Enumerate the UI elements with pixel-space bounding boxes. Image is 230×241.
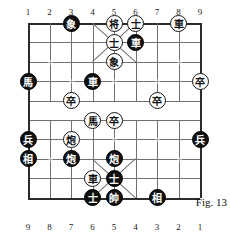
grid-file-line-7-upper [157, 23, 158, 101]
star-point-3-4 [69, 79, 74, 84]
axis-label-bottom-8: 8 [44, 222, 56, 232]
star-point-7-4 [155, 79, 160, 84]
axis-label-bottom-3: 3 [151, 222, 163, 232]
piece-black-marshal-5[interactable]: 帥 [106, 189, 123, 206]
piece-advisor-6-1[interactable]: 士 [127, 15, 144, 32]
axis-label-bottom-2: 2 [173, 222, 185, 232]
piece-white-cannon-3[interactable]: 炮 [63, 131, 80, 148]
grid-file-line-3-upper [71, 23, 72, 101]
piece-black-chariot-4[interactable]: 車 [84, 73, 101, 90]
grid-file-line-1 [28, 23, 30, 198]
piece-black-advisor-5[interactable]: 士 [106, 170, 123, 187]
piece-white-chariot-4[interactable]: 車 [84, 170, 101, 187]
piece-white-pawn-9[interactable]: 卒 [192, 73, 209, 90]
star-point-2-8 [48, 157, 53, 162]
piece-black-chariot-6[interactable]: 車 [127, 34, 144, 51]
piece-white-chariot-8[interactable]: 車 [170, 15, 187, 32]
star-point-5-4 [112, 79, 117, 84]
piece-white-pawn-3[interactable]: 卒 [63, 92, 80, 109]
piece-advisor-5-2[interactable]: 士 [106, 34, 123, 51]
axis-label-bottom-6: 6 [87, 222, 99, 232]
piece-black-advisor-4[interactable]: 士 [84, 189, 101, 206]
star-point-8-3 [177, 60, 182, 65]
piece-black-soldier-1[interactable]: 兵 [20, 131, 37, 148]
star-point-2-3 [48, 60, 53, 65]
grid-file-line-7-lower [157, 120, 158, 198]
piece-black-soldier-9[interactable]: 兵 [192, 131, 209, 148]
piece-white-horse-4[interactable]: 馬 [84, 112, 101, 129]
axis-label-top-1: 1 [22, 7, 34, 17]
piece-black-elephant[interactable]: 象 [63, 15, 80, 32]
grid-file-line-9 [200, 23, 202, 198]
figure-caption: Fig. 13 [196, 196, 227, 208]
axis-label-bottom-4: 4 [130, 222, 142, 232]
piece-white-elephant-5[interactable]: 象 [106, 53, 123, 70]
piece-black-cannon-5[interactable]: 炮 [106, 150, 123, 167]
piece-black-minister-7[interactable]: 相 [149, 189, 166, 206]
piece-black-cannon-3[interactable]: 炮 [63, 150, 80, 167]
piece-black-minister-1[interactable]: 相 [20, 150, 37, 167]
axis-label-bottom-1: 1 [194, 222, 206, 232]
star-point-7-7 [155, 137, 160, 142]
star-point-8-8 [177, 157, 182, 162]
piece-white-pawn-5[interactable]: 卒 [106, 112, 123, 129]
axis-label-bottom-5: 5 [108, 222, 120, 232]
axis-label-top-9: 9 [194, 7, 206, 17]
axis-label-top-2: 2 [44, 7, 56, 17]
star-point-5-7 [112, 137, 117, 142]
piece-black-general[interactable]: 将 [106, 15, 123, 32]
axis-label-top-7: 7 [151, 7, 163, 17]
axis-label-bottom-7: 7 [65, 222, 77, 232]
grid-rank-line-5 [28, 101, 200, 102]
piece-white-pawn-7[interactable]: 卒 [149, 92, 166, 109]
piece-black-horse-1[interactable]: 馬 [20, 73, 37, 90]
axis-label-top-4: 4 [87, 7, 99, 17]
axis-label-bottom-9: 9 [22, 222, 34, 232]
